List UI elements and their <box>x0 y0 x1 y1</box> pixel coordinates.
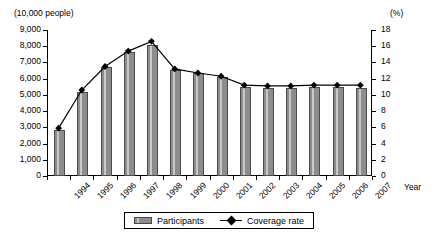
y2-axis-tick-label: 2 <box>381 154 386 164</box>
y2-axis-tick-label: 4 <box>381 138 386 148</box>
y2-axis-tick-label: 12 <box>381 73 390 83</box>
x-axis-tick-mark <box>279 176 280 180</box>
y2-axis-tick-mark <box>372 144 376 145</box>
y2-axis-tick-label: 14 <box>381 56 390 66</box>
chart-container: (10,000 people) (%) 01,0002,0003,0004,00… <box>0 0 437 243</box>
x-axis-label: 2000 <box>211 181 231 201</box>
y2-axis-tick-mark <box>372 111 376 112</box>
y2-axis-tick-mark <box>372 160 376 161</box>
x-axis-label: 1998 <box>165 181 185 201</box>
bar <box>217 77 228 176</box>
x-axis-label: 2003 <box>281 181 301 201</box>
y-axis-tick-label: 5,000 <box>20 89 41 99</box>
x-axis-tick-mark <box>47 176 48 180</box>
x-axis-tick-mark <box>163 176 164 180</box>
y-axis-tick-label: 6,000 <box>20 73 41 83</box>
y2-axis-tick-mark <box>372 62 376 63</box>
x-axis-tick-mark <box>233 176 234 180</box>
x-axis-tick-mark <box>70 176 71 180</box>
bar <box>124 52 135 176</box>
x-axis-tick-mark <box>372 176 373 180</box>
y2-axis-tick-label: 8 <box>381 105 386 115</box>
bar <box>240 87 251 176</box>
x-axis-label: 2006 <box>351 181 371 201</box>
y-axis-tick-label: 9,000 <box>20 24 41 34</box>
x-axis-tick-mark <box>117 176 118 180</box>
y-axis-tick-label: 8,000 <box>20 40 41 50</box>
x-axis-title: Year <box>404 182 421 192</box>
y-axis-tick-label: 1,000 <box>20 154 41 164</box>
bar <box>333 87 344 176</box>
left-axis-unit-label: (10,000 people) <box>14 8 74 18</box>
bar <box>147 45 158 176</box>
y2-axis-tick-label: 0 <box>381 170 386 180</box>
x-axis-tick-mark <box>186 176 187 180</box>
legend-item-label: Coverage rate <box>247 216 304 226</box>
legend-item-label: Participants <box>157 216 204 226</box>
y2-axis-tick-label: 18 <box>381 24 390 34</box>
y2-axis-tick-mark <box>372 95 376 96</box>
y-axis-tick-label: 0 <box>36 170 41 180</box>
x-axis-tick-mark <box>302 176 303 180</box>
legend-item-coverage-rate: Coverage rate <box>220 216 304 226</box>
x-axis-label: 1997 <box>142 181 162 201</box>
y2-axis-tick-mark <box>372 79 376 80</box>
x-axis-label: 2002 <box>258 181 278 201</box>
y-axis-tick-label: 3,000 <box>20 121 41 131</box>
bar <box>54 130 65 176</box>
x-axis-label: 1994 <box>72 181 92 201</box>
y2-axis-tick-mark <box>372 46 376 47</box>
x-axis-tick-mark <box>140 176 141 180</box>
x-axis-tick-mark <box>93 176 94 180</box>
x-axis-label: 1995 <box>95 181 115 201</box>
y2-axis-tick-label: 16 <box>381 40 390 50</box>
y2-axis-tick-mark <box>372 127 376 128</box>
x-axis-label: 2007 <box>374 181 394 201</box>
x-axis-label: 1999 <box>188 181 208 201</box>
bar <box>356 88 367 176</box>
bar <box>309 87 320 176</box>
bar-swatch-icon <box>134 217 152 224</box>
x-axis-tick-mark <box>256 176 257 180</box>
bar <box>286 88 297 176</box>
diamond-line-swatch-icon <box>220 217 242 225</box>
x-axis-label: 2005 <box>327 181 347 201</box>
y2-axis-tick-label: 10 <box>381 89 390 99</box>
bar <box>101 67 112 177</box>
x-axis-tick-mark <box>349 176 350 180</box>
x-axis-tick-mark <box>210 176 211 180</box>
y-axis-tick-label: 4,000 <box>20 105 41 115</box>
y2-axis-tick-mark <box>372 30 376 31</box>
bar <box>170 70 181 176</box>
right-axis-unit-label: (%) <box>390 8 403 18</box>
x-axis-label: 2001 <box>235 181 255 201</box>
bar <box>77 92 88 176</box>
plot-area <box>47 30 372 176</box>
y2-axis-tick-label: 6 <box>381 121 386 131</box>
x-axis-label: 1996 <box>119 181 139 201</box>
legend-item-participants: Participants <box>134 216 204 226</box>
y-axis-tick-label: 7,000 <box>20 56 41 66</box>
bar <box>263 88 274 176</box>
y-axis-tick-label: 2,000 <box>20 138 41 148</box>
x-axis-label: 2004 <box>304 181 324 201</box>
chart-legend: Participants Coverage rate <box>124 212 314 229</box>
bar <box>193 73 204 176</box>
x-axis-tick-mark <box>326 176 327 180</box>
